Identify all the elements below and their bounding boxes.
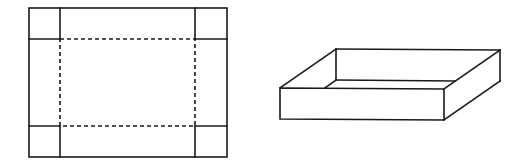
box-front-face [280,88,444,120]
net-outer-border [29,8,227,157]
box-inner-floor-left-edge [325,80,336,88]
box-back-top-edge [336,49,500,50]
figure-canvas [0,0,528,167]
box-top-right-edge [444,50,500,89]
net-fold-lines [60,39,195,126]
open-box [280,49,500,120]
box-net [29,8,227,157]
box-inner-floor-back-edge [336,80,455,81]
box-bottom-right-edge [444,81,500,120]
box-top-left-edge [280,49,336,88]
